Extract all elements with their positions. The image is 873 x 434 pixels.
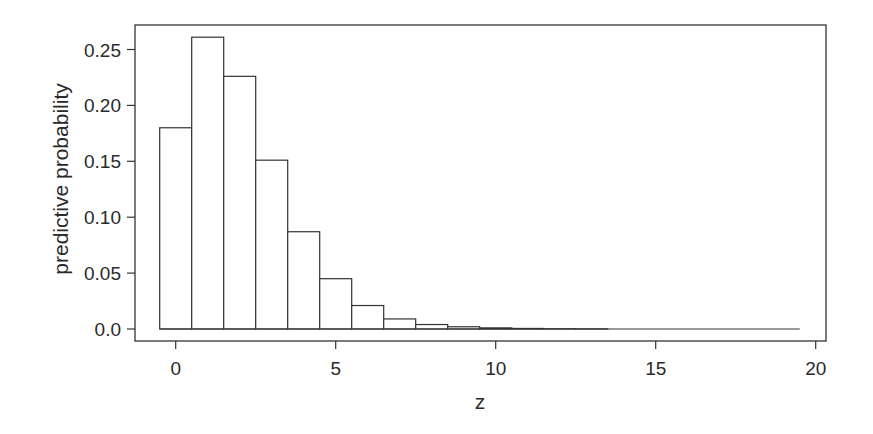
histogram-bar: [320, 279, 352, 329]
x-axis-label: z: [475, 390, 486, 413]
bars: [160, 37, 800, 329]
x-axis: 05101520: [170, 341, 826, 379]
y-axis: 0.00.050.100.150.200.25: [84, 40, 135, 341]
x-tick-label: 15: [645, 358, 666, 379]
y-tick-label: 0.15: [84, 151, 121, 172]
x-tick-label: 20: [805, 358, 826, 379]
y-tick-label: 0.0: [95, 319, 121, 340]
y-tick-label: 0.05: [84, 263, 121, 284]
y-tick-label: 0.20: [84, 95, 121, 116]
histogram-bar: [352, 306, 384, 329]
histogram-bar: [192, 37, 224, 329]
histogram-bar: [416, 325, 448, 329]
histogram-bar: [256, 160, 288, 329]
y-tick-label: 0.10: [84, 207, 121, 228]
histogram-bar: [288, 232, 320, 329]
y-axis-label: predictive probability: [49, 83, 72, 275]
histogram-bar: [224, 76, 256, 329]
x-tick-label: 0: [170, 358, 181, 379]
x-tick-label: 5: [330, 358, 341, 379]
x-tick-label: 10: [485, 358, 506, 379]
histogram-bar: [384, 319, 416, 329]
histogram-chart: 0.00.050.100.150.200.25 05101520 z predi…: [0, 0, 873, 434]
histogram-bar: [160, 128, 192, 329]
y-tick-label: 0.25: [84, 40, 121, 61]
